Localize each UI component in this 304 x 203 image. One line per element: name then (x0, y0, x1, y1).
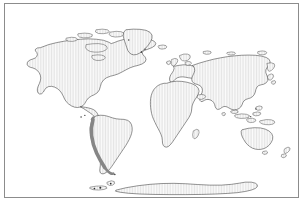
landmass-new-guinea (260, 120, 275, 125)
landmass-iceland (158, 45, 167, 49)
world-map-figure (0, 0, 304, 203)
map-canvas (5, 4, 298, 197)
map-frame (4, 3, 299, 198)
